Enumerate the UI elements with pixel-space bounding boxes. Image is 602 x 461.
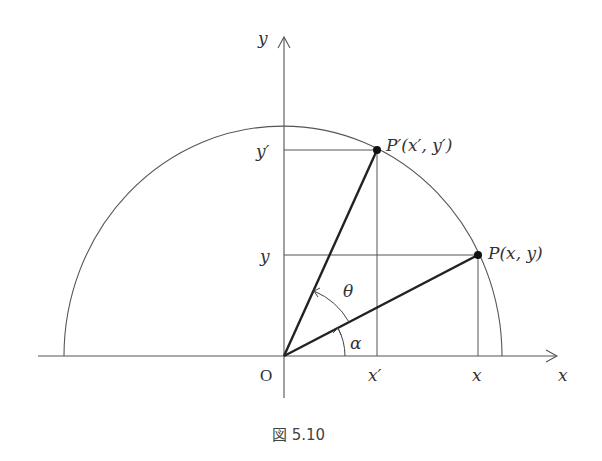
y-prime-tick-label: y′ bbox=[255, 141, 270, 161]
segment-OP bbox=[284, 255, 478, 356]
alpha-arc bbox=[338, 328, 345, 356]
x-prime-tick-label: x′ bbox=[368, 365, 382, 385]
y-axis-label: y bbox=[257, 28, 268, 48]
semicircle bbox=[64, 126, 502, 356]
rotation-diagram: y x O y′ y x′ x P′(x′, y′) P(x, y) θ α 図… bbox=[0, 0, 602, 461]
figure-caption: 図 5.10 bbox=[272, 426, 325, 444]
x-tick-label: x bbox=[472, 365, 482, 385]
origin-label: O bbox=[260, 366, 272, 385]
point-P bbox=[474, 251, 482, 259]
point-P-prime-label: P′(x′, y′) bbox=[385, 135, 452, 155]
theta-label: θ bbox=[343, 281, 353, 301]
point-P-label: P(x, y) bbox=[487, 243, 543, 263]
alpha-label: α bbox=[350, 333, 362, 353]
y-tick-label: y bbox=[259, 246, 270, 266]
point-P-prime bbox=[373, 146, 381, 154]
x-axis-label: x bbox=[558, 365, 568, 385]
segment-OP-prime bbox=[284, 150, 377, 356]
